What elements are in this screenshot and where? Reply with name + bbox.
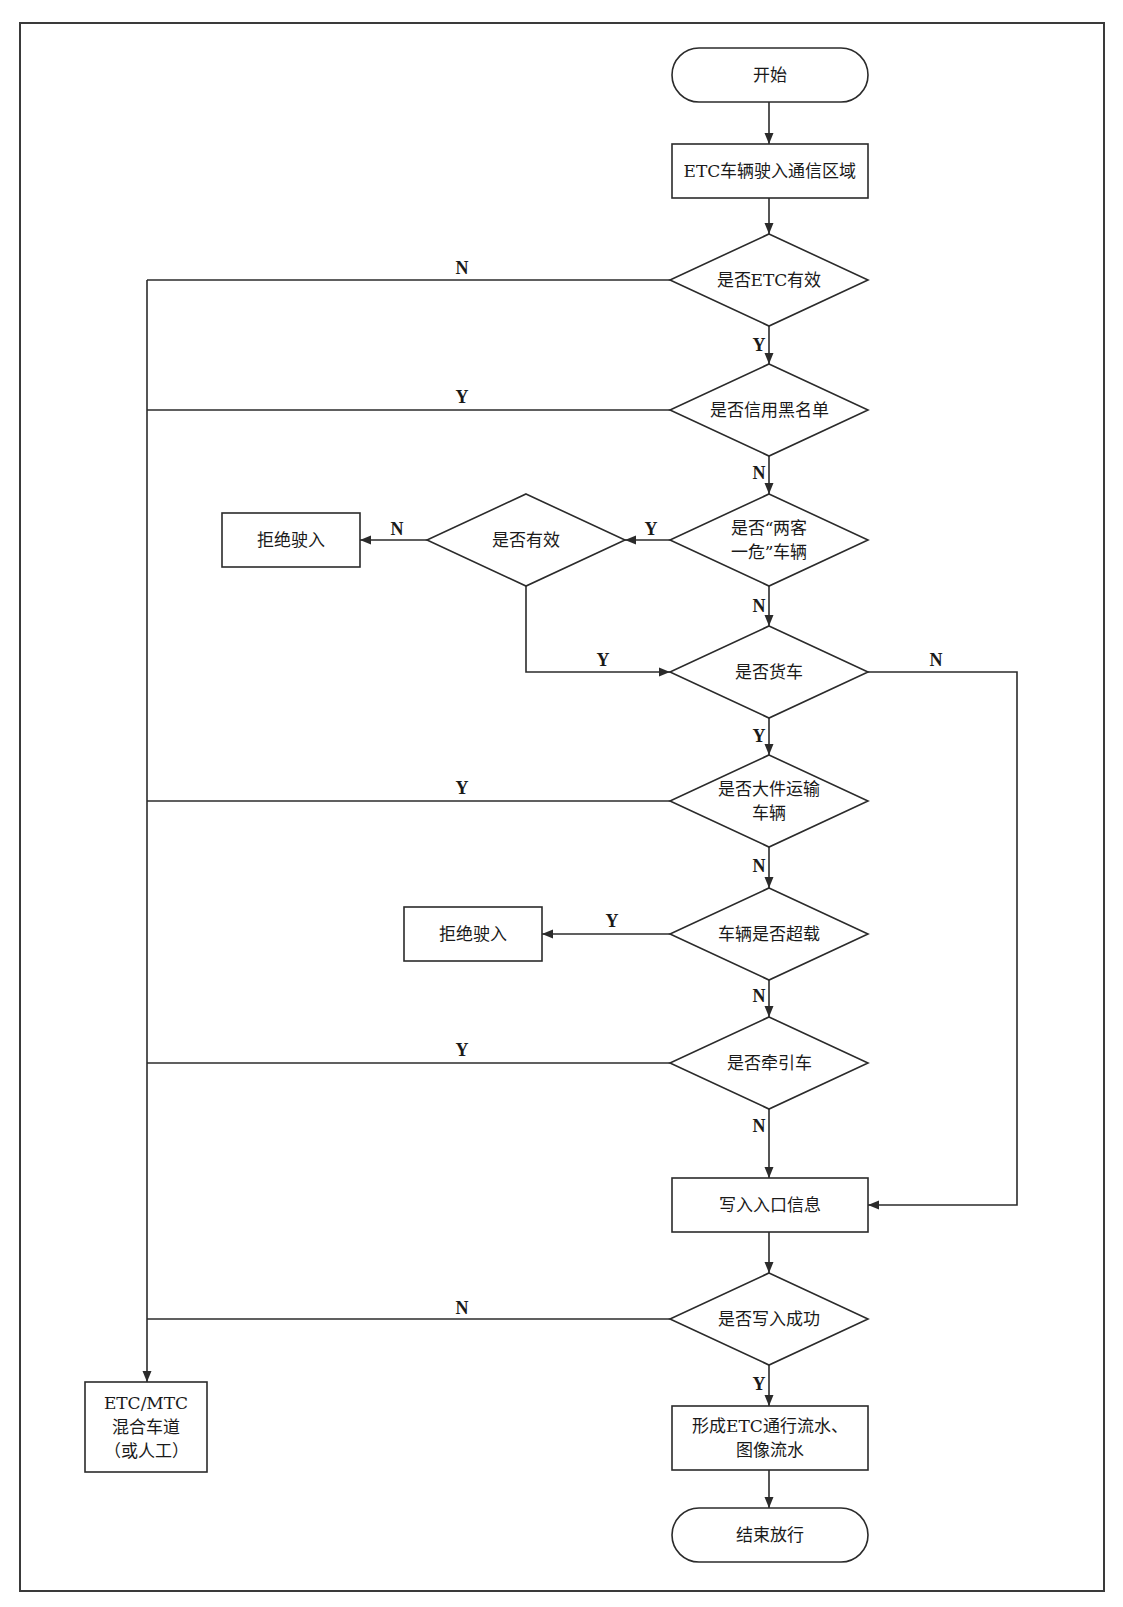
node-label: 一危”车辆 — [731, 542, 808, 562]
node-label: 是否写入成功 — [718, 1309, 820, 1329]
node-etc-valid: 是否ETC有效 — [670, 234, 868, 326]
node-label: 是否信用黑名单 — [710, 400, 829, 420]
arrowhead-icon — [765, 483, 774, 494]
edge-label-yes: Y — [753, 726, 766, 746]
node-credit-blacklist: 是否信用黑名单 — [670, 364, 868, 456]
node-label: 车辆 — [752, 803, 786, 823]
arrowhead-icon — [765, 744, 774, 755]
arrowhead-icon — [360, 536, 371, 545]
node-label: 是否ETC有效 — [717, 270, 822, 290]
edge-label-yes: Y — [597, 650, 610, 670]
connector-line — [868, 672, 1017, 1205]
edge-label-yes: Y — [606, 911, 619, 931]
node-tractor: 是否牵引车 — [670, 1017, 868, 1109]
arrowhead-icon — [765, 1006, 774, 1017]
edge-credit_blacklist-to-two_passenger_one_danger — [765, 456, 774, 494]
node-label: ETC车辆驶入通信区域 — [684, 161, 857, 181]
edge-etc_valid-to-credit_blacklist — [765, 326, 774, 364]
nodes-layer: 开始ETC车辆驶入通信区域是否ETC有效是否信用黑名单是否“两客一危”车辆是否有… — [85, 48, 868, 1562]
arrowhead-icon — [765, 223, 774, 234]
node-reject-1: 拒绝驶入 — [222, 513, 360, 567]
edge-is_truck-to-write_entry — [868, 672, 1017, 1210]
node-overloaded: 车辆是否超载 — [670, 888, 868, 980]
arrowhead-icon — [765, 1262, 774, 1273]
edge-write_entry-to-write_success — [765, 1232, 774, 1273]
edge-label-yes: Y — [753, 335, 766, 355]
node-label: 是否牵引车 — [727, 1053, 812, 1073]
arrow-down-icon — [143, 1371, 152, 1382]
edge-label-no: N — [456, 1298, 469, 1318]
node-label: ETC/MTC — [104, 1393, 188, 1413]
node-end: 结束放行 — [672, 1508, 868, 1562]
edge-label-no: N — [753, 986, 766, 1006]
edge-start-to-enter_area — [765, 102, 774, 144]
flowchart-svg: 开始ETC车辆驶入通信区域是否ETC有效是否信用黑名单是否“两客一危”车辆是否有… — [0, 0, 1123, 1607]
edge-label-yes: Y — [645, 519, 658, 539]
edge-is_truck-to-oversize_transport — [765, 718, 774, 755]
edge-label-no: N — [753, 463, 766, 483]
node-write-entry: 写入入口信息 — [672, 1178, 868, 1232]
node-label: 是否有效 — [492, 530, 560, 550]
arrowhead-icon — [765, 353, 774, 364]
edges-layer — [143, 102, 1018, 1508]
node-label: 拒绝驶入 — [439, 924, 507, 944]
fallback-trunk-connector — [143, 280, 152, 1382]
arrowhead-icon — [765, 877, 774, 888]
node-label: 是否“两客 — [731, 518, 808, 538]
arrowhead-icon — [542, 930, 553, 939]
arrowhead-icon — [765, 1497, 774, 1508]
edge-tractor-to-write_entry — [765, 1109, 774, 1178]
node-label: （或人工） — [104, 1441, 189, 1461]
edge-enter_area-to-etc_valid — [765, 198, 774, 234]
node-reject-2: 拒绝驶入 — [404, 907, 542, 961]
arrowhead-icon — [765, 133, 774, 144]
arrowhead-icon — [765, 615, 774, 626]
node-label: 图像流水 — [736, 1440, 804, 1460]
node-label: 写入入口信息 — [719, 1195, 821, 1215]
decision-diamond — [670, 494, 868, 586]
edge-write_success-to-form_record — [765, 1365, 774, 1406]
edge-label-yes: Y — [753, 1374, 766, 1394]
figure-frame — [20, 23, 1104, 1591]
arrowhead-icon — [765, 1395, 774, 1406]
node-label: 是否大件运输 — [718, 779, 820, 799]
edge-label-no: N — [456, 258, 469, 278]
node-label: 结束放行 — [736, 1525, 804, 1545]
arrowhead-icon — [765, 1167, 774, 1178]
node-oversize-transport: 是否大件运输车辆 — [670, 755, 868, 847]
node-label: 是否货车 — [735, 662, 803, 682]
edge-two_passenger_one_danger-to-is_truck — [765, 586, 774, 626]
edge-oversize_transport-to-overloaded — [765, 847, 774, 888]
node-write-success: 是否写入成功 — [670, 1273, 868, 1365]
node-label: 拒绝驶入 — [257, 530, 325, 550]
node-label: 混合车道 — [112, 1417, 180, 1437]
node-is-truck: 是否货车 — [670, 626, 868, 718]
edge-label-yes: Y — [456, 778, 469, 798]
edge-label-no: N — [753, 596, 766, 616]
node-mixed-lane: ETC/MTC混合车道（或人工） — [85, 1382, 207, 1472]
edge-label-no: N — [391, 519, 404, 539]
node-form-record: 形成ETC通行流水、图像流水 — [672, 1406, 868, 1470]
edge-form_record-to-end — [765, 1470, 774, 1508]
edge-label-yes: Y — [456, 387, 469, 407]
decision-diamond — [670, 755, 868, 847]
node-label: 车辆是否超载 — [718, 924, 820, 944]
edge-label-no: N — [930, 650, 943, 670]
flowchart-canvas: 开始ETC车辆驶入通信区域是否ETC有效是否信用黑名单是否“两客一危”车辆是否有… — [0, 0, 1123, 1607]
node-start: 开始 — [672, 48, 868, 102]
node-label: 开始 — [753, 65, 787, 85]
node-enter-area: ETC车辆驶入通信区域 — [672, 144, 868, 198]
node-label: 形成ETC通行流水、 — [692, 1416, 848, 1436]
edge-label-yes: Y — [456, 1040, 469, 1060]
arrowhead-icon — [868, 1201, 879, 1210]
edge-overloaded-to-tractor — [765, 980, 774, 1017]
edge-label-no: N — [753, 856, 766, 876]
edge-label-no: N — [753, 1116, 766, 1136]
node-two-passenger-one-danger: 是否“两客一危”车辆 — [670, 494, 868, 586]
node-is-valid: 是否有效 — [427, 494, 625, 586]
